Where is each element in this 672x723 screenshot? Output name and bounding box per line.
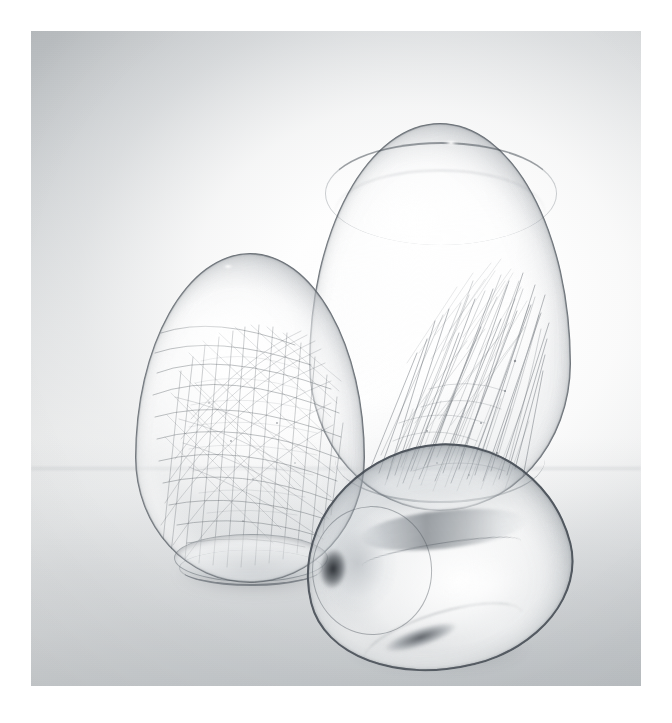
specular-sweep-left <box>158 283 255 382</box>
screenshot-canvas <box>0 0 672 723</box>
photograph-plate <box>31 31 641 686</box>
specular-sweep-tall <box>351 170 456 271</box>
